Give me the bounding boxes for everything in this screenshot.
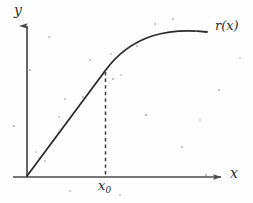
curve-label-rx: r(x) [215,19,239,32]
x-axis-label: x [230,166,238,180]
x0-subscript: 0 [106,185,112,195]
y-axis-label: y [14,3,22,17]
x0-tick-label: x0 [98,179,111,195]
figure-canvas: y x x0 r(x) [0,0,253,203]
curve-rx [27,31,207,176]
x0-base: x [98,178,105,193]
